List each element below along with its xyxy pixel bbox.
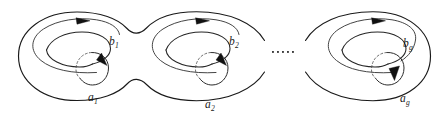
handle-2 <box>152 18 239 85</box>
label-a-2: a2 <box>205 99 215 111</box>
ellipsis-dot-1 <box>272 51 274 53</box>
handle-g-a-arrowhead <box>389 66 400 81</box>
handle-g-hole-upper <box>342 32 406 64</box>
surface-outer-upper-left <box>19 12 265 56</box>
handle-2-hole-lower <box>166 50 212 67</box>
ellipsis-dot-3 <box>282 51 284 53</box>
genus-surface-figure: b1 a1 b2 a2 bg ag <box>0 0 447 122</box>
ellipsis-dots <box>272 51 294 53</box>
handle-1-a-cycle-front <box>80 52 108 85</box>
ellipsis-dot-5 <box>292 51 294 53</box>
handle-g-hole-lower <box>342 50 388 67</box>
handle-2-a-cycle-front <box>200 52 228 85</box>
surface-diagram-svg <box>0 0 447 122</box>
handle-g <box>328 18 415 85</box>
ellipsis-dot-2 <box>277 51 279 53</box>
label-b-g: bg <box>403 38 413 50</box>
label-a-1: a1 <box>88 92 98 104</box>
label-a-g: ag <box>400 93 410 105</box>
label-b-2: b2 <box>229 36 239 48</box>
handle-1-hole-lower <box>47 50 93 67</box>
label-b-1: b1 <box>109 36 119 48</box>
handle-1 <box>33 18 120 85</box>
ellipsis-dot-4 <box>287 51 289 53</box>
surface-outer-lower-right <box>306 56 431 101</box>
